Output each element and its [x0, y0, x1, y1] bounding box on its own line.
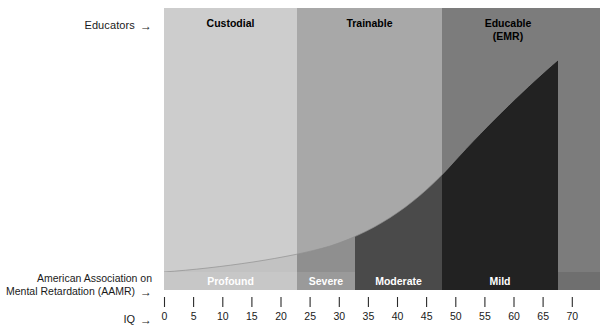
- x-tick-label: 15: [240, 310, 264, 322]
- band-title-educable: Educable (EMR): [442, 17, 574, 42]
- x-tick-label: 30: [327, 310, 351, 322]
- band-title-custodial: Custodial: [164, 17, 297, 30]
- x-axis-ticks: [165, 297, 573, 307]
- band-title-trainable: Trainable: [297, 17, 442, 30]
- x-tick-label: 25: [298, 310, 322, 322]
- aamr-caption-profound: Profound: [164, 275, 297, 287]
- aamr-label-line1: American Association on: [37, 272, 152, 284]
- x-tick-label: 60: [502, 310, 526, 322]
- aamr-caption-severe: Severe: [297, 275, 355, 287]
- iq-axis-annotation: IQ→: [60, 313, 152, 326]
- x-tick-label: 50: [444, 310, 468, 322]
- x-tick-label: 70: [560, 310, 584, 322]
- x-tick-label: 20: [269, 310, 293, 322]
- x-tick-label: 5: [182, 310, 206, 322]
- iq-severity-chart: Educators→ American Association on Menta…: [0, 0, 610, 332]
- x-tick-label: 40: [386, 310, 410, 322]
- iq-axis-label: IQ: [123, 313, 135, 325]
- educator-band-custodial: [164, 8, 297, 290]
- x-tick-label: 65: [531, 310, 555, 322]
- arrow-right-icon: →: [140, 315, 152, 326]
- band-title-educable-line1: Educable: [442, 17, 574, 30]
- arrow-right-icon: →: [140, 287, 152, 298]
- band-title-educable-line2: (EMR): [442, 30, 574, 43]
- aamr-caption-moderate: Moderate: [355, 275, 442, 287]
- educators-label: Educators: [84, 19, 134, 31]
- x-tick-label: 0: [153, 310, 177, 322]
- arrow-right-icon: →: [140, 21, 152, 32]
- educators-annotation: Educators→: [0, 19, 152, 32]
- x-tick-label: 55: [473, 310, 497, 322]
- aamr-strip-tail: [558, 272, 600, 290]
- aamr-annotation: American Association on Mental Retardati…: [0, 272, 152, 298]
- aamr-caption-mild: Mild: [442, 275, 558, 287]
- x-tick-label: 10: [211, 310, 235, 322]
- x-tick-label: 35: [356, 310, 380, 322]
- aamr-label-line2: Mental Retardation (AAMR): [6, 285, 135, 297]
- x-tick-label: 45: [415, 310, 439, 322]
